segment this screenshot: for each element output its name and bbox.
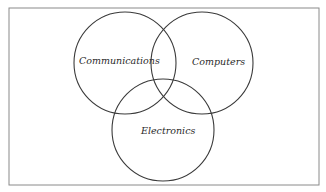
venn-diagram: Communications Computers Electronics: [0, 0, 326, 192]
label-communications: Communications: [79, 55, 160, 66]
label-electronics: Electronics: [140, 125, 195, 136]
label-computers: Computers: [192, 56, 245, 67]
set-electronics: Electronics: [112, 79, 214, 181]
set-communications: Communications: [74, 12, 176, 114]
set-computers: Computers: [151, 12, 253, 114]
